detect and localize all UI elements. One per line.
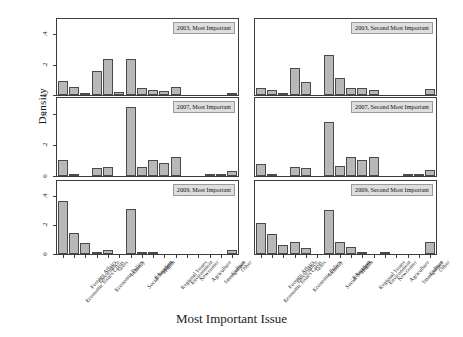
x-tick-mark <box>419 255 420 258</box>
x-tick-mark <box>329 255 330 258</box>
bar <box>58 201 68 254</box>
x-tick-mark <box>232 255 233 258</box>
y-tick-mark <box>53 176 56 177</box>
bar <box>335 242 345 254</box>
x-tick-mark <box>119 255 120 258</box>
x-tick-mark <box>131 255 132 258</box>
y-tick-label: .2 <box>41 57 49 73</box>
panel-p2003-most: 2003, Most Important <box>56 18 239 96</box>
x-tick-label: Industry <box>129 259 146 277</box>
bar <box>290 167 300 176</box>
bar <box>148 160 158 176</box>
x-tick-mark <box>85 255 86 258</box>
x-tick-mark <box>396 255 397 258</box>
bar <box>414 174 424 176</box>
x-tick-mark <box>272 255 273 258</box>
bar <box>346 157 356 176</box>
panel-strip-label: 2007, Most Important <box>173 101 235 113</box>
bar <box>380 252 390 254</box>
x-tick-label: Industry <box>327 259 344 277</box>
panel-p2009-second: 2009, Second Most Important <box>254 180 437 255</box>
panel-strip-label: 2009, Most Important <box>173 184 235 196</box>
x-tick-mark <box>430 255 431 258</box>
bar <box>357 160 367 176</box>
y-tick-label: 0 <box>41 168 49 184</box>
bar <box>346 88 356 95</box>
bar <box>256 223 266 254</box>
bar <box>58 160 68 176</box>
x-tick-label: Health <box>161 259 176 275</box>
y-tick-mark <box>53 254 56 255</box>
x-tick-mark <box>142 255 143 258</box>
y-tick-mark <box>53 114 56 115</box>
x-tick-mark <box>385 255 386 258</box>
y-tick-label: .4 <box>41 106 49 122</box>
x-tick-mark <box>176 255 177 258</box>
x-tick-mark <box>374 255 375 258</box>
bar <box>425 170 435 176</box>
bar <box>137 252 147 254</box>
figure-canvas: Density Most Important Issue 2003, Most … <box>0 0 463 337</box>
bar <box>267 234 277 254</box>
bar <box>357 252 367 254</box>
panel-p2009-most: 2009, Most Important <box>56 180 239 255</box>
bar <box>69 87 79 95</box>
x-tick-mark <box>153 255 154 258</box>
x-axis-title: Most Important Issue <box>0 311 463 327</box>
y-tick-label: .4 <box>41 188 49 204</box>
bar <box>357 88 367 95</box>
bar <box>278 93 288 95</box>
bar <box>69 174 79 176</box>
bar <box>159 91 169 95</box>
x-tick-mark <box>198 255 199 258</box>
bar <box>301 82 311 95</box>
bar <box>267 174 277 176</box>
bar <box>58 81 68 95</box>
x-tick-mark <box>210 255 211 258</box>
x-tick-mark <box>340 255 341 258</box>
y-tick-mark <box>53 34 56 35</box>
bar <box>369 90 379 95</box>
panel-strip-label: 2009, Second Most Important <box>351 184 433 196</box>
bar <box>278 245 288 254</box>
x-tick-mark <box>362 255 363 258</box>
bar <box>80 243 90 254</box>
bar <box>425 89 435 95</box>
y-tick-label: 0 <box>41 246 49 262</box>
bar <box>171 157 181 176</box>
bar <box>227 250 237 254</box>
bar <box>227 171 237 176</box>
x-tick-mark <box>108 255 109 258</box>
x-tick-mark <box>295 255 296 258</box>
bar <box>256 88 266 95</box>
y-tick-label: .2 <box>41 137 49 153</box>
bar <box>103 167 113 176</box>
panel-strip-label: 2003, Most Important <box>173 22 235 34</box>
bar <box>216 174 226 176</box>
bar <box>256 164 266 176</box>
bar <box>267 90 277 95</box>
bar <box>92 168 102 176</box>
bar <box>403 174 413 176</box>
bar <box>324 55 334 95</box>
bar <box>80 93 90 95</box>
x-tick-mark <box>187 255 188 258</box>
bar <box>159 163 169 176</box>
bar <box>290 68 300 95</box>
x-tick-mark <box>74 255 75 258</box>
bar <box>324 210 334 254</box>
bar <box>369 157 379 177</box>
bar <box>301 168 311 176</box>
x-tick-mark <box>283 255 284 258</box>
bar <box>324 122 334 176</box>
y-tick-label: .2 <box>41 217 49 233</box>
bar <box>92 252 102 254</box>
x-tick-mark <box>63 255 64 258</box>
bar <box>290 242 300 254</box>
y-tick-mark <box>53 65 56 66</box>
bar <box>92 71 102 95</box>
bar <box>425 242 435 254</box>
x-tick-mark <box>317 255 318 258</box>
x-tick-mark <box>351 255 352 258</box>
y-tick-mark <box>53 196 56 197</box>
